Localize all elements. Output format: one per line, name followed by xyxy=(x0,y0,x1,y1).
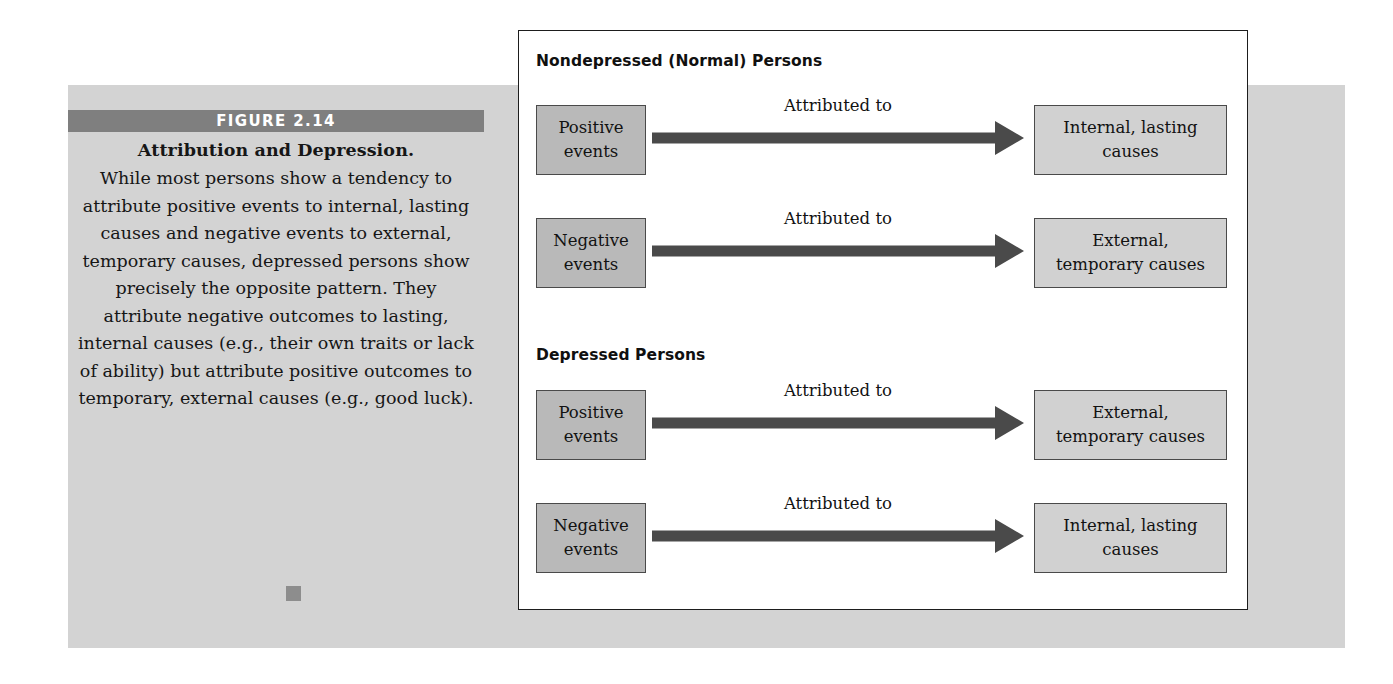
target-box-line1: External, xyxy=(1092,401,1169,425)
source-box: Negative events xyxy=(536,503,646,573)
section-header-depressed: Depressed Persons xyxy=(536,346,705,364)
arrow-label: Attributed to xyxy=(652,381,1024,400)
source-box-line2: events xyxy=(564,538,619,562)
figure-caption: Attribution and Depression. While most p… xyxy=(78,136,474,413)
attribution-arrow xyxy=(652,121,1024,155)
section-header-nondepressed: Nondepressed (Normal) Persons xyxy=(536,52,822,70)
source-box-line2: events xyxy=(564,425,619,449)
target-box: Internal, lasting causes xyxy=(1034,105,1227,175)
source-box: Positive events xyxy=(536,105,646,175)
source-box-line1: Positive xyxy=(558,116,623,140)
figure-caption-title: Attribution and Depression. xyxy=(78,136,474,165)
arrow-label: Attributed to xyxy=(652,494,1024,513)
target-box-line1: External, xyxy=(1092,229,1169,253)
target-box-line2: temporary causes xyxy=(1056,253,1205,277)
figure-stage: FIGURE 2.14 Attribution and Depression. … xyxy=(0,0,1393,684)
source-box-line1: Negative xyxy=(553,514,629,538)
source-box-line2: events xyxy=(564,253,619,277)
caption-end-marker-square xyxy=(286,586,301,601)
figure-number-label: FIGURE 2.14 xyxy=(68,111,484,132)
target-box-line2: temporary causes xyxy=(1056,425,1205,449)
target-box-line2: causes xyxy=(1102,140,1158,164)
target-box-line1: Internal, lasting xyxy=(1063,514,1197,538)
source-box: Positive events xyxy=(536,390,646,460)
arrow-icon xyxy=(652,234,1024,268)
source-box-line1: Positive xyxy=(558,401,623,425)
target-box: External, temporary causes xyxy=(1034,218,1227,288)
target-box: External, temporary causes xyxy=(1034,390,1227,460)
arrow-icon xyxy=(652,121,1024,155)
arrow-label: Attributed to xyxy=(652,209,1024,228)
target-box-line2: causes xyxy=(1102,538,1158,562)
arrow-icon xyxy=(652,519,1024,553)
figure-caption-body: While most persons show a tendency to at… xyxy=(78,165,474,413)
attribution-arrow xyxy=(652,234,1024,268)
attribution-arrow xyxy=(652,519,1024,553)
arrow-icon xyxy=(652,406,1024,440)
source-box-line1: Negative xyxy=(553,229,629,253)
target-box: Internal, lasting causes xyxy=(1034,503,1227,573)
source-box: Negative events xyxy=(536,218,646,288)
source-box-line2: events xyxy=(564,140,619,164)
attribution-arrow xyxy=(652,406,1024,440)
arrow-label: Attributed to xyxy=(652,96,1024,115)
target-box-line1: Internal, lasting xyxy=(1063,116,1197,140)
